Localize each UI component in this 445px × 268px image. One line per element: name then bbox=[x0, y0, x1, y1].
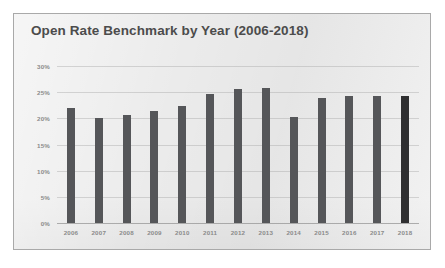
x-axis-tick-label: 2018 bbox=[398, 229, 413, 236]
x-axis-tick-label: 2010 bbox=[175, 229, 190, 236]
x-axis-tick-label: 2014 bbox=[286, 229, 301, 236]
bar bbox=[401, 96, 409, 223]
y-axis-tick-label: 0% bbox=[41, 220, 50, 227]
gridline bbox=[57, 223, 419, 224]
bar-slot: 2013 bbox=[252, 66, 280, 223]
chart-panel: Open Rate Benchmark by Year (2006-2018) … bbox=[13, 13, 431, 250]
bar bbox=[234, 89, 242, 223]
bar-slot: 2010 bbox=[168, 66, 196, 223]
plot-area: 0%5%10%15%20%25%30% 20062007200820092010… bbox=[57, 66, 419, 223]
x-axis-tick-label: 2017 bbox=[370, 229, 385, 236]
bar-slot: 2007 bbox=[85, 66, 113, 223]
bar-series: 2006200720082009201020112012201320142015… bbox=[57, 66, 419, 223]
bar-slot: 2014 bbox=[280, 66, 308, 223]
bar bbox=[318, 98, 326, 223]
bar-slot: 2017 bbox=[363, 66, 391, 223]
bar-slot: 2018 bbox=[391, 66, 419, 223]
bar bbox=[150, 111, 158, 223]
x-axis-tick-label: 2013 bbox=[259, 229, 274, 236]
x-axis-tick-label: 2016 bbox=[342, 229, 357, 236]
bar bbox=[345, 96, 353, 223]
page-top-margin bbox=[0, 0, 445, 11]
bar-slot: 2011 bbox=[196, 66, 224, 223]
x-axis-tick-label: 2008 bbox=[119, 229, 134, 236]
x-axis-tick-label: 2015 bbox=[314, 229, 329, 236]
bar-slot: 2008 bbox=[113, 66, 141, 223]
y-axis-tick-label: 5% bbox=[41, 193, 50, 200]
y-axis-tick-label: 10% bbox=[37, 167, 50, 174]
bar-slot: 2015 bbox=[308, 66, 336, 223]
chart-title: Open Rate Benchmark by Year (2006-2018) bbox=[31, 23, 309, 38]
x-axis-tick-label: 2007 bbox=[91, 229, 106, 236]
bar bbox=[290, 117, 298, 223]
bar-slot: 2009 bbox=[141, 66, 169, 223]
y-axis-tick-label: 20% bbox=[37, 115, 50, 122]
y-axis-tick-label: 15% bbox=[37, 141, 50, 148]
x-axis-tick-label: 2012 bbox=[231, 229, 246, 236]
bar bbox=[206, 94, 214, 223]
x-axis-tick-label: 2011 bbox=[203, 229, 217, 236]
bar bbox=[95, 118, 103, 223]
bar bbox=[262, 88, 270, 223]
bar bbox=[178, 106, 186, 223]
bar-slot: 2012 bbox=[224, 66, 252, 223]
x-axis-tick-label: 2009 bbox=[147, 229, 162, 236]
y-axis-tick-label: 25% bbox=[37, 89, 50, 96]
bar-slot: 2006 bbox=[57, 66, 85, 223]
bar bbox=[373, 96, 381, 223]
x-axis-tick-label: 2006 bbox=[64, 229, 79, 236]
bar bbox=[67, 108, 75, 223]
y-axis-tick-label: 30% bbox=[37, 63, 50, 70]
bar bbox=[123, 115, 131, 223]
bar-slot: 2016 bbox=[335, 66, 363, 223]
